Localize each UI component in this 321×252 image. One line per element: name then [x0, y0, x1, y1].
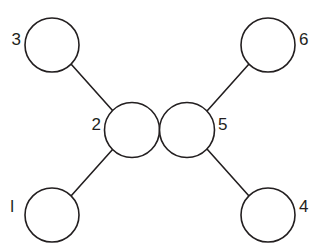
node-label-n4: 4 — [299, 197, 308, 216]
edge-n1-n2 — [71, 149, 113, 196]
node-label-n2: 2 — [92, 115, 101, 134]
node-circle-n2[interactable] — [105, 103, 160, 158]
node-circle-n5[interactable] — [160, 103, 215, 158]
node-circle-n1[interactable] — [25, 188, 79, 242]
diagram-canvas: l23456 — [0, 0, 321, 252]
edge-n6-n5 — [207, 64, 249, 111]
node-label-n3: 3 — [12, 30, 21, 49]
edge-n3-n2 — [71, 64, 113, 111]
nodes-group — [25, 18, 295, 242]
node-circle-n6[interactable] — [241, 18, 295, 72]
node-circle-n4[interactable] — [241, 188, 295, 242]
edge-n4-n5 — [207, 149, 249, 196]
node-label-n6: 6 — [299, 30, 308, 49]
graph-svg: l23456 — [0, 0, 321, 252]
node-label-n5: 5 — [218, 115, 227, 134]
node-circle-n3[interactable] — [25, 18, 79, 72]
node-label-n1: l — [10, 197, 14, 216]
